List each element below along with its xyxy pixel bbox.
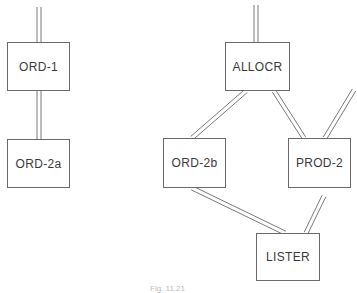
node-label: ORD-2b [172, 156, 218, 170]
node-prod-2: PROD-2 [288, 138, 351, 188]
connector-external-to-prod2 [323, 89, 355, 139]
node-allocr: ALLOCR [225, 42, 290, 91]
node-label: ORD-2a [16, 157, 62, 171]
connector-external-to-ord1 [37, 7, 41, 42]
connector-allocr-to-ord2b [191, 89, 248, 139]
node-ord-2b: ORD-2b [163, 138, 226, 188]
node-label: ORD-1 [19, 60, 58, 74]
connector-external-to-allocr [254, 5, 258, 42]
connector-external-to-lister [304, 195, 326, 234]
node-ord-1: ORD-1 [7, 42, 70, 91]
figure-caption: Fig. 11.21 [150, 284, 185, 293]
connector-ord1-to-ord2a [37, 91, 41, 139]
connector-ord2b-to-lister [191, 186, 286, 235]
connector-allocr-to-prod2 [272, 90, 305, 139]
node-ord-2a: ORD-2a [7, 139, 70, 188]
node-label: LISTER [266, 250, 310, 264]
node-lister: LISTER [256, 233, 320, 281]
node-label: ALLOCR [233, 60, 283, 74]
node-label: PROD-2 [296, 156, 343, 170]
